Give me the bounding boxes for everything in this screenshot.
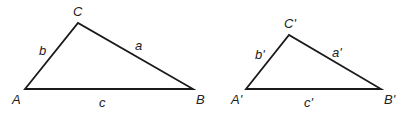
triangle-abc-shape <box>25 23 193 89</box>
vertex-label-c: C <box>73 4 83 19</box>
side-label-c-prime: c' <box>304 95 314 110</box>
similar-triangles-diagram: A B C a b c A' B' C' a' b' c' <box>0 0 405 114</box>
vertex-label-b: B <box>196 92 205 107</box>
triangle-abc-prime-shape <box>246 35 381 89</box>
vertex-label-a: A <box>11 92 21 107</box>
vertex-label-b-prime: B' <box>384 92 396 107</box>
triangle-abc: A B C a b c <box>11 4 205 110</box>
side-label-b-prime: b' <box>255 47 265 62</box>
vertex-label-a-prime: A' <box>230 92 243 107</box>
triangle-abc-prime: A' B' C' a' b' c' <box>230 16 396 110</box>
side-label-c: c <box>99 95 106 110</box>
vertex-label-c-prime: C' <box>284 16 296 31</box>
side-label-a-prime: a' <box>332 45 342 60</box>
side-label-b: b <box>39 43 46 58</box>
side-label-a: a <box>135 38 142 53</box>
